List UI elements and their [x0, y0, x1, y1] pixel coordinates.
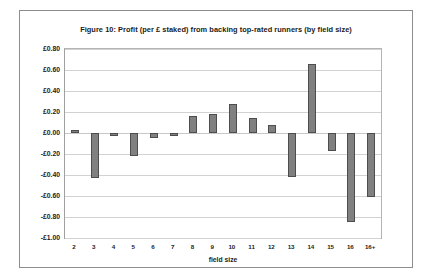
bar	[110, 133, 118, 136]
bar	[91, 133, 99, 178]
y-tick-label: £0.00	[20, 129, 60, 136]
x-tick-label: 16+	[365, 243, 376, 250]
bar	[347, 133, 355, 222]
x-tick-label: 9	[210, 243, 213, 250]
x-tick-label: 3	[92, 243, 95, 250]
y-tick-label: -£0.20	[20, 150, 60, 157]
bar	[170, 133, 178, 136]
y-tick-label: £0.40	[20, 87, 60, 94]
y-tick-label: -£1.00	[20, 234, 60, 241]
gridline	[65, 238, 381, 239]
bar	[189, 116, 197, 133]
bar	[249, 118, 257, 133]
x-tick-label: 10	[228, 243, 235, 250]
x-tick-label: 12	[268, 243, 275, 250]
x-tick-label: 4	[112, 243, 115, 250]
y-tick-label: -£0.40	[20, 171, 60, 178]
bar	[288, 133, 296, 177]
plot-area	[64, 48, 382, 239]
bar	[71, 130, 79, 133]
y-tick-label: -£0.80	[20, 213, 60, 220]
x-tick-label: 11	[248, 243, 255, 250]
chart-title: Figure 10: Profit (per £ staked) from ba…	[20, 25, 412, 34]
bar	[367, 133, 375, 197]
x-tick-label: 16	[347, 243, 354, 250]
x-tick-label: 14	[307, 243, 314, 250]
x-tick-label: 7	[171, 243, 174, 250]
y-tick-label: £0.20	[20, 108, 60, 115]
x-tick-label: 13	[288, 243, 295, 250]
bar	[150, 133, 158, 138]
y-tick-label: £0.80	[20, 45, 60, 52]
bar	[130, 133, 138, 156]
x-tick-label: 15	[327, 243, 334, 250]
bars-series	[65, 49, 381, 238]
x-tick-label: 6	[151, 243, 154, 250]
figure-frame: Figure 10: Profit (per £ staked) from ba…	[19, 10, 413, 268]
bar	[229, 104, 237, 133]
bar	[268, 125, 276, 133]
y-tick-label: -£0.60	[20, 192, 60, 199]
x-tick-label: 5	[131, 243, 134, 250]
x-axis-title: field size	[64, 256, 382, 263]
y-tick-label: £0.60	[20, 66, 60, 73]
bar	[209, 114, 217, 133]
bar	[308, 64, 316, 133]
x-tick-label: 8	[191, 243, 194, 250]
x-tick-label: 2	[72, 243, 75, 250]
bar	[328, 133, 336, 151]
